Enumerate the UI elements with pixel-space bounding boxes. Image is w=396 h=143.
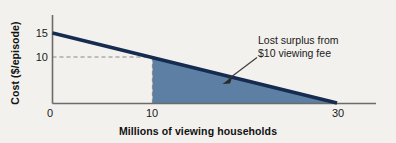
y-tick-label-15: 15 — [28, 27, 48, 39]
lost-surplus-annotation-line-1: Lost surplus from — [258, 34, 339, 47]
y-tick-label-10: 10 — [28, 51, 48, 63]
x-tick-label-10: 10 — [140, 107, 164, 119]
y-axis-title: Cost ($/episode) — [9, 8, 21, 118]
callout-arrow-shaft — [229, 58, 258, 80]
lost-surplus-annotation-line-2: $10 viewing fee — [258, 47, 331, 60]
chart-figure: Cost ($/episode) Millions of viewing hou… — [0, 0, 396, 143]
x-tick-label-0: 0 — [38, 107, 62, 119]
y-axis-title-wrapper: Cost ($/episode) — [9, 8, 25, 118]
chart-canvas — [0, 0, 396, 143]
x-tick-label-30: 30 — [326, 107, 350, 119]
x-axis-title: Millions of viewing households — [0, 125, 396, 137]
